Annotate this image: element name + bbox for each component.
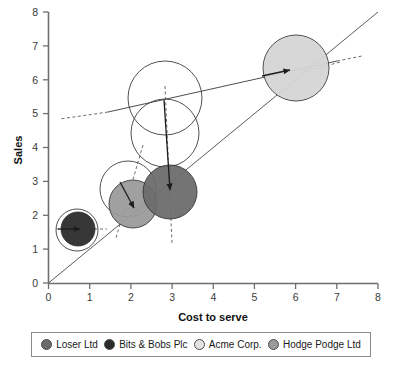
x-tick-label-2: 2 xyxy=(128,291,134,303)
legend-label-bits-and-bobs-plc: Bits & Bobs Plc xyxy=(119,340,187,350)
legend-swatch-icon-bits-and-bobs-plc xyxy=(104,339,115,350)
chart-legend: Loser Ltd Bits & Bobs Plc Acme Corp. Hod… xyxy=(31,332,371,357)
legend-label-loser-ltd: Loser Ltd xyxy=(56,340,98,350)
y-tick-label-7: 7 xyxy=(32,40,38,52)
trend-line-dash-right xyxy=(337,56,362,61)
legend-label-acme-corp: Acme Corp. xyxy=(209,340,262,350)
x-tick-label-3: 3 xyxy=(169,291,175,303)
parity-diagonal-line xyxy=(49,12,379,283)
y-axis-title: Sales xyxy=(12,136,24,165)
bubble-chart-figure: 8 7 6 5 4 3 2 1 0 Sales 0 1 2 3 4 xyxy=(0,0,402,366)
legend-item-acme-corp[interactable]: Acme Corp. xyxy=(194,339,262,350)
y-tick-label-3: 3 xyxy=(32,175,38,187)
x-tick-label-0: 0 xyxy=(46,291,52,303)
trend-line-dash-left xyxy=(60,112,108,119)
y-tick-label-1: 1 xyxy=(32,243,38,255)
x-axis-title: Cost to serve xyxy=(178,311,248,323)
legend-swatch-icon-hodge-podge-ltd xyxy=(268,339,279,350)
legend-swatch-icon-loser-ltd xyxy=(41,339,52,350)
y-tick-label-4: 4 xyxy=(32,141,38,153)
x-axis: 0 1 2 3 4 5 6 7 8 Cost to serve xyxy=(46,284,382,324)
legend-label-hodge-podge-ltd: Hodge Podge Ltd xyxy=(283,340,361,350)
x-tick-label-5: 5 xyxy=(251,291,257,303)
y-tick-label-6: 6 xyxy=(32,74,38,86)
legend-swatch-icon-acme-corp xyxy=(194,339,205,350)
legend-item-hodge-podge-ltd[interactable]: Hodge Podge Ltd xyxy=(268,339,361,350)
y-axis: 8 7 6 5 4 3 2 1 0 Sales xyxy=(12,6,49,289)
x-tick-label-8: 8 xyxy=(375,291,381,303)
x-tick-label-1: 1 xyxy=(87,291,93,303)
bubble-loser-ltd[interactable] xyxy=(143,165,197,219)
legend-item-loser-ltd[interactable]: Loser Ltd xyxy=(41,339,98,350)
x-tick-label-6: 6 xyxy=(293,291,299,303)
x-tick-label-4: 4 xyxy=(210,291,216,303)
y-tick-label-0: 0 xyxy=(32,277,38,289)
legend-item-bits-and-bobs-plc[interactable]: Bits & Bobs Plc xyxy=(104,339,187,350)
chart-canvas: 8 7 6 5 4 3 2 1 0 Sales 0 1 2 3 4 xyxy=(0,0,402,366)
x-tick-label-7: 7 xyxy=(334,291,340,303)
y-tick-label-8: 8 xyxy=(32,6,38,18)
bubble-acme-corp[interactable] xyxy=(263,35,329,101)
y-tick-label-5: 5 xyxy=(32,107,38,119)
y-tick-label-2: 2 xyxy=(32,209,38,221)
